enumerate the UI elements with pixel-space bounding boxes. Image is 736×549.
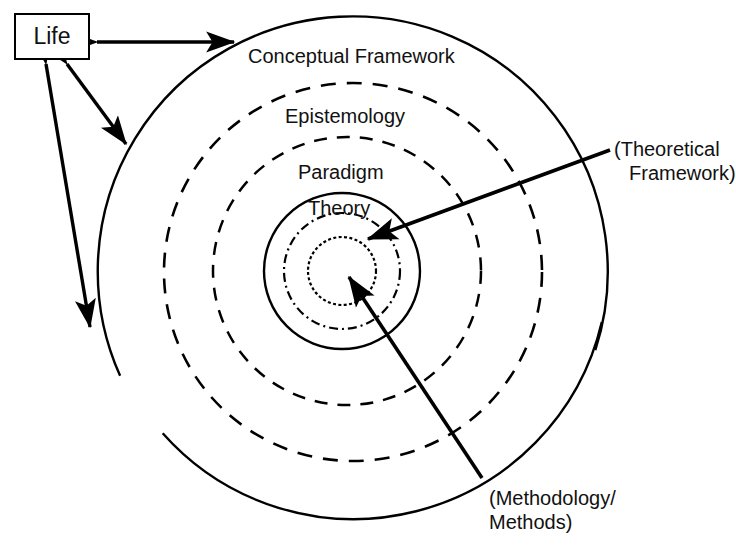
label-epistemology: Epistemology — [285, 105, 405, 129]
label-paradigm: Paradigm — [298, 161, 384, 185]
life-box-label-wrap: Life — [14, 13, 90, 60]
annotation-theoretical-framework-line1: (Theoretical — [614, 138, 720, 162]
ring-methods-core — [308, 237, 376, 305]
pointer-methodology-methods — [349, 277, 482, 478]
annotation-methodology-methods-line1: (Methodology/ — [489, 487, 616, 511]
label-conceptual-framework: Conceptual Framework — [248, 45, 455, 69]
ring-conceptual-framework — [98, 16, 608, 519]
life-label: Life — [33, 23, 70, 50]
ring-methodology — [284, 213, 400, 329]
label-theory: Theory — [308, 197, 370, 221]
pointer-theoretical-framework — [368, 150, 610, 239]
annotation-methodology-methods-line2: Methods) — [489, 511, 572, 535]
ring-epistemology — [164, 83, 542, 461]
connector-life-to-ring-upper — [67, 64, 126, 144]
annotation-theoretical-framework-line2: Framework) — [629, 162, 736, 186]
connector-life-to-ring-lower — [46, 64, 90, 327]
